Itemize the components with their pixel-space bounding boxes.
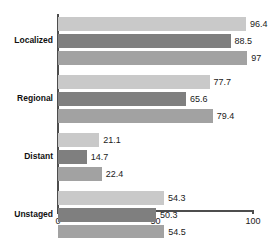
bar-value-localized-series-3: 97 xyxy=(251,51,261,65)
bar-chart: 050100 Localized96.488.597Regional77.765… xyxy=(0,0,275,238)
category-label-localized: Localized xyxy=(14,35,53,45)
bar-regional-series-2 xyxy=(58,92,186,106)
bar-value-regional-series-1: 77.7 xyxy=(214,75,232,89)
bar-unstaged-series-2 xyxy=(58,208,156,222)
bar-distant-series-2 xyxy=(58,150,87,164)
bar-value-distant-series-2: 14.7 xyxy=(91,150,109,164)
bar-value-localized-series-1: 96.4 xyxy=(250,17,268,31)
x-tick-100 xyxy=(252,210,254,214)
category-label-regional: Regional xyxy=(17,93,53,103)
bar-unstaged-series-3 xyxy=(58,225,164,238)
bar-value-distant-series-3: 22.4 xyxy=(106,167,124,181)
bar-regional-series-3 xyxy=(58,109,213,123)
category-label-unstaged: Unstaged xyxy=(14,209,53,219)
category-label-distant: Distant xyxy=(24,151,53,161)
bar-regional-series-1 xyxy=(58,75,210,89)
bar-value-unstaged-series-3: 54.5 xyxy=(168,225,186,238)
bar-value-regional-series-2: 65.6 xyxy=(190,92,208,106)
bar-value-localized-series-2: 88.5 xyxy=(235,34,253,48)
x-tick-label-100: 100 xyxy=(245,216,260,226)
bar-localized-series-3 xyxy=(58,51,247,65)
bar-value-unstaged-series-2: 50.3 xyxy=(160,208,178,222)
bar-value-distant-series-1: 21.1 xyxy=(103,133,121,147)
bar-localized-series-2 xyxy=(58,34,231,48)
bar-distant-series-1 xyxy=(58,133,99,147)
bar-value-regional-series-3: 79.4 xyxy=(217,109,235,123)
bar-value-unstaged-series-1: 54.3 xyxy=(168,191,186,205)
bar-distant-series-3 xyxy=(58,167,102,181)
bar-unstaged-series-1 xyxy=(58,191,164,205)
bar-localized-series-1 xyxy=(58,17,246,31)
